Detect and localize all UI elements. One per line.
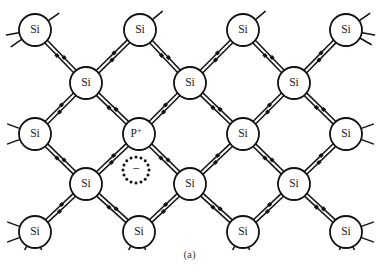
atom-charge-superscript: + — [137, 125, 142, 134]
atom-label: Si — [81, 177, 91, 189]
bond-stub — [11, 39, 22, 47]
bond-line-0 — [306, 193, 337, 221]
atom-label: Si — [185, 177, 195, 189]
bond-line-1 — [44, 42, 75, 74]
bond-line-1 — [149, 42, 179, 74]
bond-line-0 — [202, 192, 234, 221]
atom-a-r2-c3: Si — [278, 67, 310, 99]
bond-line-1 — [303, 94, 334, 125]
free-electron-ring-dot — [135, 156, 138, 159]
bond-line-1 — [252, 92, 282, 122]
atom-a-r2-c2: Si — [174, 67, 206, 99]
bond-line-0 — [254, 39, 285, 71]
bond-line-1 — [148, 145, 178, 175]
atom-label: Si — [30, 23, 40, 35]
bond-stub — [359, 38, 371, 45]
bond-line-1 — [252, 145, 282, 175]
bond-line-1 — [95, 94, 127, 125]
bond-stub — [8, 124, 21, 129]
bond-stub — [8, 222, 21, 227]
atom-a-r3-c1: Si — [19, 118, 51, 150]
bond-line-0 — [151, 95, 181, 125]
bond-line-1 — [199, 39, 231, 71]
free-electron-ring-dot — [139, 156, 142, 159]
bond-line-0 — [255, 143, 285, 173]
atom-layer: SiSiSiSiSiSiSiSiP+SiSiSiSiSiSiSiSiSi — [19, 14, 362, 248]
bond-line-0 — [98, 41, 131, 74]
figure-container: − SiSiSiSiSiSiSiSiP+SiSiSiSiSiSiSiSiSi (… — [0, 0, 379, 277]
bond-stub — [360, 237, 373, 242]
bond-line-0 — [151, 39, 181, 71]
bond-line-0 — [151, 143, 181, 173]
atom-a-r2-c1: Si — [70, 67, 102, 99]
bond-line-1 — [252, 193, 282, 221]
free-electron-ring-dot — [148, 169, 151, 172]
bond-line-1 — [95, 143, 127, 173]
free-electron-ring-dot — [147, 173, 150, 176]
bond-stub — [254, 11, 265, 20]
atom-a-r1-c4: Si — [330, 14, 362, 46]
free-electron-ring-dot — [122, 169, 125, 172]
bond-line-0 — [202, 145, 234, 175]
bond-line-0 — [306, 92, 337, 123]
atom-label: Si — [30, 127, 40, 139]
atom-label: Si — [30, 225, 40, 237]
bond-stub — [8, 139, 21, 144]
bond-line-0 — [98, 145, 130, 175]
atom-a-r3-c3: Si — [227, 118, 259, 150]
bond-stub — [47, 13, 58, 21]
bond-line-1 — [44, 193, 74, 221]
free-electron-ring-dot — [130, 181, 133, 184]
free-electron-ring-dot — [122, 173, 125, 176]
free-electron-ring-dot — [139, 181, 142, 184]
atom-a-r5-c3: Si — [227, 216, 259, 248]
bond-line-1 — [252, 42, 283, 74]
atom-label: Si — [341, 225, 351, 237]
bond-stub — [8, 237, 21, 242]
atom-a-r4-c3: Si — [278, 168, 310, 200]
atom-a-r4-c1: Si — [70, 168, 102, 200]
bond-stub — [360, 222, 373, 227]
bond-line-1 — [96, 195, 128, 224]
bond-line-1 — [303, 143, 334, 173]
free-electron-ring-dot — [125, 159, 128, 162]
free-electron-ring-dot — [147, 164, 150, 167]
bond-line-0 — [47, 143, 77, 173]
bond-line-1 — [148, 92, 178, 122]
bond-line-0 — [47, 95, 77, 125]
bond-line-1 — [303, 39, 335, 71]
bond-line-0 — [47, 195, 77, 223]
bond-stub — [151, 11, 162, 20]
bond-stub-layer — [6, 11, 374, 250]
bond-stub — [361, 33, 375, 35]
bond-line-0 — [98, 192, 130, 221]
bond-line-1 — [200, 195, 232, 224]
atom-label: Si — [289, 177, 299, 189]
bond-line-1 — [199, 94, 231, 125]
atom-label: Si — [135, 23, 145, 35]
free-electron-ring-dot — [122, 164, 125, 167]
free-electron-layer: − — [122, 156, 151, 185]
free-electron-ring-dot — [144, 159, 147, 162]
silicon-lattice-diagram: − SiSiSiSiSiSiSiSiP+SiSiSiSiSiSiSiSiSi — [0, 0, 379, 250]
bond-line-1 — [199, 143, 231, 173]
atom-a-r1-c2: Si — [124, 14, 156, 46]
free-electron-ring-dot — [135, 182, 138, 185]
bond-line-0 — [46, 39, 77, 71]
bond-stub — [360, 139, 373, 144]
figure-caption: (a) — [0, 248, 379, 260]
bond-line-0 — [98, 92, 130, 123]
bond-line-0 — [202, 92, 234, 123]
bond-line-0 — [202, 42, 234, 74]
atom-label: Si — [341, 23, 351, 35]
atom-a-r5-c4: Si — [330, 216, 362, 248]
bond-line-1 — [44, 145, 74, 175]
atom-a-r1-c3: Si — [227, 14, 259, 46]
atom-label: Si — [238, 225, 248, 237]
atom-a-r4-c2: Si — [174, 168, 206, 200]
atom-a-r5-c2: Si — [123, 216, 155, 248]
bond-line-1 — [95, 39, 128, 72]
bond-stub — [360, 124, 373, 129]
bond-line-0 — [306, 145, 337, 175]
bond-line-0 — [305, 42, 337, 74]
